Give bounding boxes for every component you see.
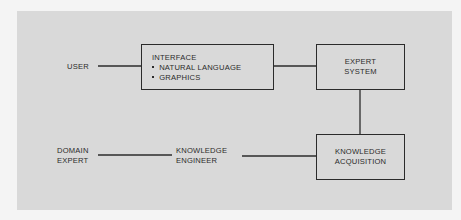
interface-item-graphics: GRAPHICS — [152, 73, 200, 83]
domain-expert-line1: DOMAIN — [57, 146, 89, 156]
knowledge-engineer-line2: ENGINEER — [176, 156, 217, 166]
interface-title: INTERFACE — [152, 53, 196, 63]
knowledge-acquisition-line2: ACQUISITION — [317, 157, 404, 167]
interface-box: INTERFACE NATURAL LANGUAGE GRAPHICS — [141, 44, 274, 90]
user-label: USER — [67, 62, 89, 72]
knowledge-engineer-line1: KNOWLEDGE — [176, 146, 227, 156]
expert-system-line2: SYSTEM — [317, 67, 404, 77]
interface-item-natural-language: NATURAL LANGUAGE — [152, 63, 241, 73]
knowledge-acquisition-box: KNOWLEDGE ACQUISITION — [316, 134, 405, 180]
knowledge-acquisition-line1: KNOWLEDGE — [317, 147, 404, 157]
expert-system-line1: EXPERT — [317, 57, 404, 67]
bullet-icon — [152, 76, 154, 78]
expert-system-box: EXPERT SYSTEM — [316, 44, 405, 90]
interface-item-label: NATURAL LANGUAGE — [159, 63, 241, 72]
bullet-icon — [152, 66, 154, 68]
connector-lines — [0, 0, 461, 220]
domain-expert-line2: EXPERT — [57, 156, 88, 166]
interface-item-label: GRAPHICS — [159, 73, 200, 82]
